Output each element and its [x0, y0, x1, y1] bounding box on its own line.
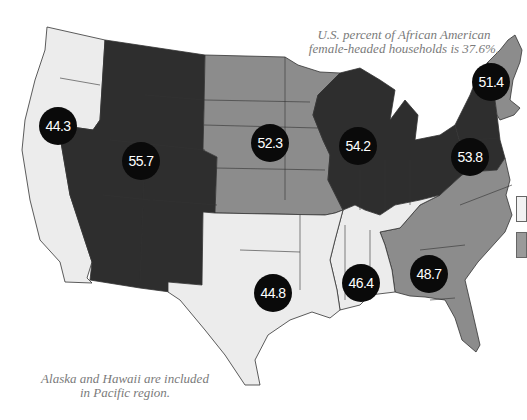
- alaska-hawaii-note-line1: Alaska and Hawaii are included: [30, 372, 220, 386]
- bubble-middle-atlantic: 53.8: [451, 138, 489, 176]
- legend-swatch-medium: [516, 232, 527, 258]
- bubble-east-south-central: 46.4: [342, 264, 380, 302]
- us-percent-note-line2: female-headed households is 37.6%.: [298, 42, 510, 56]
- us-percent-note-line1: U.S. percent of African American: [298, 28, 510, 42]
- bubble-pacific: 44.3: [39, 107, 77, 145]
- bubble-new-england: 51.4: [472, 63, 510, 101]
- us-percent-note: U.S. percent of African American female-…: [298, 28, 510, 56]
- legend-swatch-light: [516, 196, 527, 222]
- bubble-mountain: 55.7: [122, 142, 160, 180]
- bubble-south-atlantic: 48.7: [410, 255, 448, 293]
- alaska-hawaii-note: Alaska and Hawaii are included in Pacifi…: [30, 372, 220, 400]
- alaska-hawaii-note-line2: in Pacific region.: [30, 386, 220, 400]
- bubble-west-north-central: 52.3: [251, 124, 289, 162]
- bubble-west-south-central: 44.8: [254, 274, 292, 312]
- region-east-north-central: [313, 68, 462, 215]
- bubble-east-north-central: 54.2: [339, 127, 377, 165]
